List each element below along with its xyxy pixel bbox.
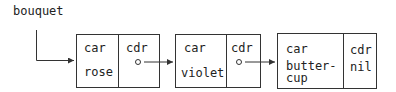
- cdr-label: cdr: [350, 44, 372, 57]
- cell-divider: [343, 34, 344, 88]
- car-value: butter- cup: [286, 60, 337, 84]
- car-value: violet: [181, 67, 224, 80]
- variable-label: bouquet: [13, 5, 64, 18]
- cdr-label: cdr: [126, 42, 148, 55]
- car-label: car: [84, 42, 106, 55]
- cdr-label: cdr: [231, 42, 253, 55]
- cdr-value-nil: nil: [350, 61, 372, 74]
- car-value: rose: [84, 66, 113, 79]
- cell-divider: [118, 35, 119, 87]
- car-label: car: [184, 42, 206, 55]
- cell-divider: [226, 35, 227, 87]
- car-label: car: [286, 43, 308, 56]
